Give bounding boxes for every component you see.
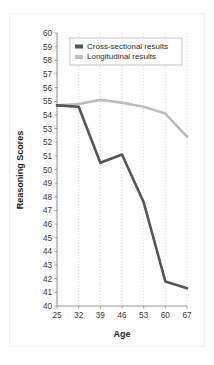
y-tick-label: 52 bbox=[43, 138, 53, 147]
legend-swatch-cross-sectional bbox=[75, 45, 83, 49]
x-tick-label: 32 bbox=[74, 311, 84, 320]
y-axis-title: Reasoning Scores bbox=[15, 131, 25, 210]
y-tick-label: 46 bbox=[43, 220, 53, 229]
x-tick-label: 39 bbox=[96, 311, 106, 320]
y-tick-label: 54 bbox=[43, 111, 53, 120]
legend-swatch-longitudinal bbox=[75, 55, 83, 59]
x-tick-label: 67 bbox=[182, 311, 192, 320]
y-tick-label: 55 bbox=[43, 97, 53, 106]
x-axis-title: Age bbox=[113, 329, 130, 339]
x-axis-ticks: 25323946536067 bbox=[52, 306, 192, 320]
reasoning-scores-line-chart: 6059585756555453525150494847464544434241… bbox=[10, 14, 204, 346]
y-tick-label: 48 bbox=[43, 193, 53, 202]
x-tick-label: 25 bbox=[52, 311, 62, 320]
y-tick-label: 41 bbox=[43, 288, 53, 297]
x-tick-label: 60 bbox=[161, 311, 171, 320]
y-tick-label: 59 bbox=[43, 43, 53, 52]
y-tick-label: 58 bbox=[43, 56, 53, 65]
x-tick-label: 53 bbox=[139, 311, 149, 320]
y-tick-label: 57 bbox=[43, 70, 53, 79]
y-tick-label: 53 bbox=[43, 125, 53, 134]
y-tick-label: 51 bbox=[43, 152, 53, 161]
legend-label-cross-sectional: Cross-sectional results bbox=[87, 42, 168, 51]
y-tick-label: 45 bbox=[43, 234, 53, 243]
y-tick-label: 47 bbox=[43, 206, 53, 215]
y-tick-label: 42 bbox=[43, 275, 53, 284]
chart-figure-frame: 6059585756555453525150494847464544434241… bbox=[9, 13, 205, 347]
legend-label-longitudinal: Longitudinal results bbox=[87, 52, 156, 61]
plot-area-background bbox=[57, 33, 187, 306]
x-tick-label: 46 bbox=[117, 311, 127, 320]
chart-legend: Cross-sectional results Longitudinal res… bbox=[70, 38, 182, 65]
y-tick-label: 40 bbox=[43, 302, 53, 311]
y-tick-label: 44 bbox=[43, 247, 53, 256]
y-tick-label: 49 bbox=[43, 179, 53, 188]
y-tick-label: 50 bbox=[43, 166, 53, 175]
y-tick-label: 60 bbox=[43, 29, 53, 38]
y-tick-label: 43 bbox=[43, 261, 53, 270]
y-tick-label: 56 bbox=[43, 84, 53, 93]
y-axis-ticks: 6059585756555453525150494847464544434241… bbox=[43, 29, 57, 311]
